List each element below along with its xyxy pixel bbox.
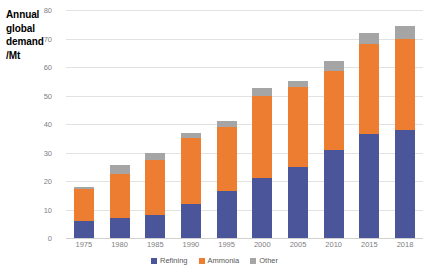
bar-group-1975[interactable] (74, 10, 94, 238)
legend-label-refining: Refining (160, 256, 188, 265)
bar-segment-other-1985[interactable] (145, 153, 165, 160)
x-axis-tick-1985: 1985 (138, 240, 172, 252)
bar-segment-refining-2005[interactable] (288, 167, 308, 238)
x-axis-tick-1990: 1990 (174, 240, 208, 252)
y-axis-tick-10: 10 (32, 205, 52, 214)
legend-item-refining[interactable]: Refining (151, 256, 188, 265)
y-axis-title-line-4: /Mt (6, 49, 52, 63)
bar-segment-other-2010[interactable] (324, 61, 344, 71)
legend-item-ammonia[interactable]: Ammonia (199, 256, 240, 265)
x-axis-tick-2018: 2018 (388, 240, 422, 252)
bar-group-2010[interactable] (324, 10, 344, 238)
bar-segment-ammonia-2000[interactable] (252, 96, 272, 179)
bar-segment-ammonia-1985[interactable] (145, 160, 165, 216)
bar-segment-refining-2018[interactable] (395, 130, 415, 238)
bar-segment-ammonia-1990[interactable] (181, 138, 201, 204)
legend-item-other[interactable]: Other (250, 256, 278, 265)
bar-segment-other-1980[interactable] (110, 165, 130, 174)
chart-legend: RefiningAmmoniaOther (0, 256, 429, 265)
bar-group-2005[interactable] (288, 10, 308, 238)
bar-group-2000[interactable] (252, 10, 272, 238)
bar-segment-refining-2010[interactable] (324, 150, 344, 238)
bar-series-container (66, 10, 423, 238)
x-axis-tick-labels: 1975198019851990199520002005201020152018 (66, 240, 423, 252)
bar-segment-refining-1990[interactable] (181, 204, 201, 238)
legend-label-other: Other (259, 256, 278, 265)
legend-swatch-ammonia-icon (199, 258, 205, 264)
bar-segment-ammonia-2005[interactable] (288, 87, 308, 167)
bar-segment-ammonia-1980[interactable] (110, 174, 130, 218)
bar-segment-refining-1980[interactable] (110, 218, 130, 238)
bar-segment-refining-1995[interactable] (217, 191, 237, 238)
x-axis-tick-1980: 1980 (103, 240, 137, 252)
y-axis-tick-70: 70 (32, 34, 52, 43)
x-axis-tick-1975: 1975 (67, 240, 101, 252)
gridline-0 (66, 238, 423, 239)
plot-area: 01020304050607080 (66, 10, 423, 238)
bar-segment-refining-2000[interactable] (252, 178, 272, 238)
legend-label-ammonia: Ammonia (208, 256, 240, 265)
x-axis-tick-2005: 2005 (281, 240, 315, 252)
bar-segment-ammonia-2018[interactable] (395, 39, 415, 130)
y-axis-tick-60: 60 (32, 63, 52, 72)
bar-group-1990[interactable] (181, 10, 201, 238)
bar-segment-refining-1985[interactable] (145, 215, 165, 238)
y-axis-tick-80: 80 (32, 6, 52, 15)
y-axis-tick-20: 20 (32, 177, 52, 186)
bar-group-1995[interactable] (217, 10, 237, 238)
legend-swatch-other-icon (250, 258, 256, 264)
bar-segment-other-2018[interactable] (395, 26, 415, 39)
bar-segment-ammonia-2015[interactable] (359, 44, 379, 134)
y-axis-tick-40: 40 (32, 120, 52, 129)
bar-segment-other-2015[interactable] (359, 33, 379, 44)
legend-swatch-refining-icon (151, 258, 157, 264)
y-axis-tick-30: 30 (32, 148, 52, 157)
bar-segment-ammonia-1975[interactable] (74, 189, 94, 221)
bar-segment-ammonia-2010[interactable] (324, 71, 344, 149)
bar-segment-other-2000[interactable] (252, 88, 272, 95)
bar-segment-refining-1975[interactable] (74, 221, 94, 238)
stacked-bar-chart: Annual global demand /Mt 010203040506070… (0, 0, 429, 272)
bar-segment-ammonia-1995[interactable] (217, 127, 237, 191)
x-axis-tick-1995: 1995 (210, 240, 244, 252)
x-axis-tick-2010: 2010 (317, 240, 351, 252)
x-axis-tick-2000: 2000 (245, 240, 279, 252)
y-axis-tick-0: 0 (32, 234, 52, 243)
x-axis-tick-2015: 2015 (352, 240, 386, 252)
bar-group-1985[interactable] (145, 10, 165, 238)
bar-group-2018[interactable] (395, 10, 415, 238)
bar-group-1980[interactable] (110, 10, 130, 238)
y-axis-title-line-2: global (6, 22, 52, 36)
y-axis-tick-50: 50 (32, 91, 52, 100)
bar-group-2015[interactable] (359, 10, 379, 238)
bar-segment-refining-2015[interactable] (359, 134, 379, 238)
